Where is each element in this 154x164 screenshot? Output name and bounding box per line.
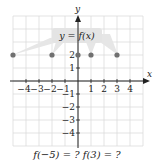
data-point	[114, 52, 119, 57]
function-label: y = f(x)	[58, 30, 95, 41]
svg-text:−4: −4	[17, 84, 31, 94]
x-axis-label: x	[147, 69, 152, 79]
svg-text:−3: −3	[62, 115, 76, 125]
coordinate-plane: −4−3−2−1123421−1−2−3−4 x y y = f(x)	[0, 0, 154, 164]
data-point	[10, 52, 15, 57]
svg-text:1: 1	[88, 84, 94, 94]
svg-text:2: 2	[101, 84, 107, 94]
svg-text:1: 1	[69, 63, 75, 73]
y-axis-label: y	[74, 4, 81, 14]
data-point	[49, 52, 54, 57]
data-point	[88, 52, 93, 57]
svg-text:−4: −4	[62, 128, 76, 138]
svg-text:−2: −2	[62, 102, 75, 112]
data-point	[75, 52, 80, 57]
svg-text:−3: −3	[30, 84, 44, 94]
svg-text:−2: −2	[43, 84, 56, 94]
question-caption: f(−5) = ? f(3) = ?	[0, 149, 154, 160]
svg-text:3: 3	[114, 84, 120, 94]
svg-text:4: 4	[127, 84, 133, 94]
svg-text:−1: −1	[62, 89, 75, 99]
svg-text:2: 2	[69, 50, 75, 60]
